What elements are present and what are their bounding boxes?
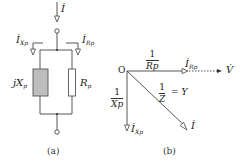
admittance-label: = Y (171, 88, 187, 97)
fraction-1-over-xp: 1Xp (111, 88, 123, 109)
total-current-label: İ (61, 4, 65, 14)
resistive-current-label: İRp (82, 35, 94, 46)
arrow-head-icon (31, 49, 36, 55)
resistive-current-label: İRp (185, 59, 197, 70)
resistance-label: Rp (80, 78, 91, 89)
arrow-head-icon (125, 125, 130, 131)
terminal-top-icon (55, 29, 59, 33)
circuit-diagram (31, 2, 81, 134)
origin-label: O (118, 66, 125, 75)
fraction-1-over-rp: 1Rp (146, 50, 159, 71)
caption-a: (a) (47, 147, 59, 156)
terminal-bottom-icon (55, 130, 59, 134)
arrow-head-icon (76, 49, 81, 55)
voltage-label: V̇ (226, 65, 233, 75)
reactance-label: jXp (13, 78, 27, 89)
reactive-current-label: İXp (131, 124, 143, 135)
arrow-head-icon (217, 69, 222, 73)
fraction-1-over-z: 1Z (159, 83, 165, 104)
circuit-and-phasor-diagram (0, 0, 246, 168)
total-current-label: İ (191, 121, 195, 131)
caption-b: (b) (163, 147, 176, 156)
arrow-head-icon (180, 122, 187, 130)
arrow-head-icon (55, 16, 60, 22)
reactive-current-label: İXp (16, 35, 28, 46)
phasor-diagram (125, 69, 223, 132)
reactor-element (33, 69, 48, 96)
resistor-element (69, 69, 76, 96)
